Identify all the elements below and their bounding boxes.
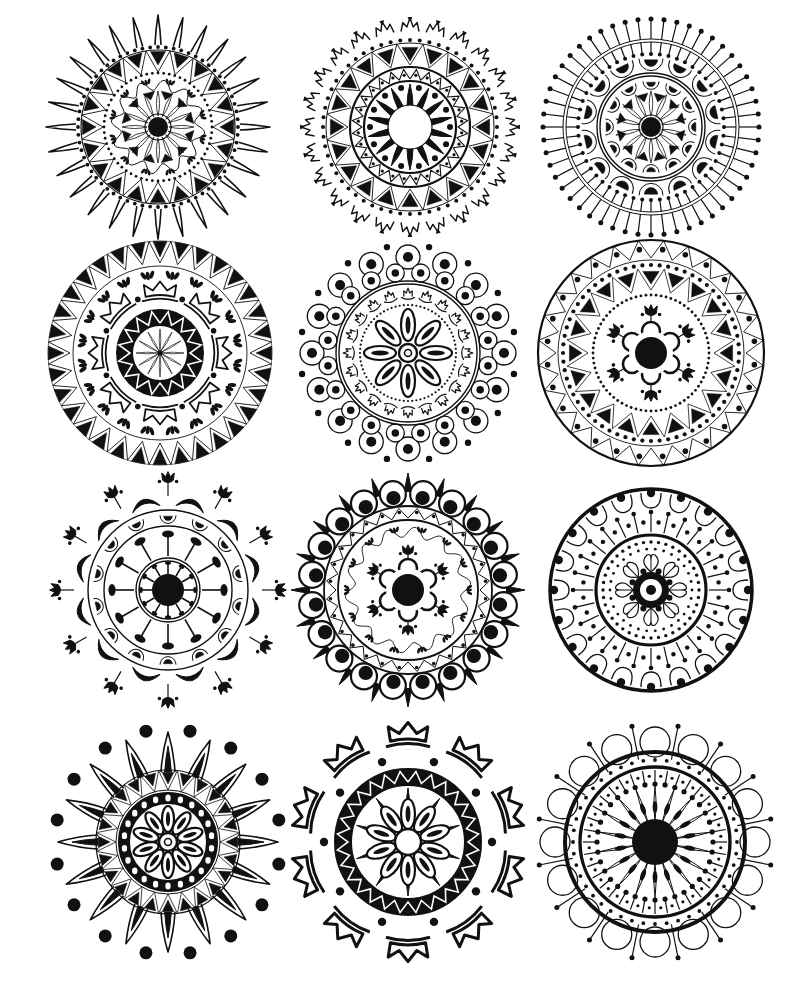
- mandala-bordered-tulip-star: [538, 240, 764, 466]
- ring-zigzag: [327, 44, 493, 210]
- ring-ovals: [132, 806, 204, 878]
- mandala-artwork: [0, 0, 810, 985]
- ring-disc: [641, 117, 661, 137]
- ring-circle: [336, 281, 480, 425]
- mandala-bubble-rim-daisy: [299, 244, 517, 462]
- ring-disc: [158, 351, 163, 356]
- ring-disc: [148, 117, 168, 137]
- ring-crowns-in: [343, 288, 473, 418]
- mandala-loop-rim-sunflower: [537, 724, 773, 960]
- mandala-crown-rim-star-center: [301, 18, 520, 237]
- ring-disc: [635, 337, 667, 369]
- ring-circle: [388, 105, 432, 149]
- ring-spikes: [368, 84, 452, 170]
- mandala-sheet: [0, 0, 810, 985]
- mandala-arch-ring-dotted-flower: [550, 489, 752, 691]
- ring-triangles: [330, 47, 489, 206]
- ring-disc: [632, 819, 678, 865]
- ring-circle: [159, 833, 177, 851]
- ring-circle: [395, 829, 421, 855]
- ring-circle: [405, 350, 412, 357]
- ring-bubbles: [300, 245, 516, 461]
- ring-circle: [165, 839, 172, 846]
- ring-bubbles: [319, 264, 497, 442]
- mandala-dot-halo-star-daisy: [51, 725, 286, 960]
- mandala-sunburst-pointed-petals: [46, 15, 270, 239]
- ring-ovals: [364, 309, 452, 397]
- mandala-pin-rim-scallop: [541, 17, 762, 238]
- mandala-lotus-crown-bold: [288, 723, 529, 962]
- ring-circle: [399, 344, 417, 362]
- mandala-triangle-rim-lotus: [48, 241, 272, 465]
- ring-disc: [392, 574, 424, 606]
- mandala-spiked-scallop-flower: [291, 473, 525, 707]
- mandala-tulip-spokes-wheel: [50, 472, 287, 709]
- ring-disc: [646, 585, 656, 595]
- ring-ovals: [365, 799, 451, 885]
- ring-disc: [152, 574, 184, 606]
